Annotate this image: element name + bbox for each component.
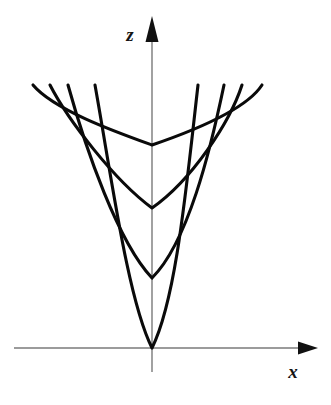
figure-root: z x <box>0 0 331 405</box>
z-axis-label: z <box>125 24 134 45</box>
parabola-family-plot: z x <box>0 0 331 405</box>
x-axis-label: x <box>287 361 298 382</box>
plot-background <box>0 0 331 405</box>
